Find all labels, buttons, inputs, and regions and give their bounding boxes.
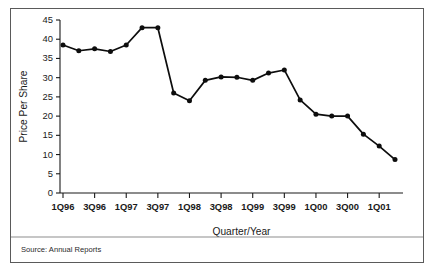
- x-tick-label: 1Q99: [241, 201, 264, 212]
- x-tick-label: 1Q01: [368, 201, 391, 212]
- x-tick-label: 1Q96: [52, 201, 75, 212]
- y-tick-label: 20: [43, 110, 53, 121]
- x-tick-label: 3Q99: [273, 201, 296, 212]
- x-axis-title: Quarter/Year: [213, 226, 272, 237]
- y-tick-label: 10: [43, 149, 53, 160]
- data-point-marker: [171, 91, 176, 96]
- x-tick-label: 1Q00: [304, 201, 327, 212]
- data-point-marker: [377, 144, 382, 149]
- x-tick-label: 3Q96: [83, 201, 106, 212]
- data-point-marker: [203, 78, 208, 83]
- chart-figure-frame: 0510152025303540451Q963Q961Q973Q971Q983Q…: [10, 8, 424, 263]
- data-point-marker: [250, 78, 255, 83]
- y-tick-label: 0: [48, 187, 53, 198]
- y-tick-label: 25: [43, 91, 53, 102]
- data-point-marker: [140, 25, 145, 30]
- data-series-price-per-share: [61, 25, 398, 162]
- data-point-marker: [282, 67, 287, 72]
- data-point-marker: [92, 46, 97, 51]
- y-axis-title: Price Per Share: [18, 70, 29, 142]
- y-tick-label: 35: [43, 52, 53, 63]
- data-point-marker: [61, 42, 66, 47]
- y-tick-label: 30: [43, 72, 53, 83]
- x-tick-label: 1Q97: [115, 201, 138, 212]
- data-point-marker: [124, 42, 129, 47]
- x-tick-label: 3Q97: [146, 201, 169, 212]
- series-line-path: [63, 28, 395, 160]
- y-tick-label: 5: [48, 168, 53, 179]
- data-point-marker: [329, 114, 334, 119]
- x-axis-ticks: 1Q963Q961Q973Q971Q983Q981Q993Q991Q003Q00…: [52, 193, 391, 212]
- x-tick-label: 3Q00: [336, 201, 359, 212]
- line-chart: 0510152025303540451Q963Q961Q973Q971Q983Q…: [11, 9, 423, 262]
- y-axis-ticks: 051015202530354045: [43, 14, 60, 198]
- data-point-marker: [234, 75, 239, 80]
- data-point-marker: [108, 49, 113, 54]
- x-tick-label: 1Q98: [178, 201, 201, 212]
- y-tick-label: 15: [43, 129, 53, 140]
- chart-axes: [60, 20, 403, 193]
- y-tick-label: 40: [43, 33, 53, 44]
- data-point-marker: [155, 25, 160, 30]
- data-point-marker: [361, 132, 366, 137]
- data-point-marker: [313, 112, 318, 117]
- data-point-marker: [187, 98, 192, 103]
- data-point-marker: [393, 157, 398, 162]
- chart-plot-area: 0510152025303540451Q963Q961Q973Q971Q983Q…: [11, 9, 423, 262]
- data-point-marker: [345, 114, 350, 119]
- data-point-marker: [76, 48, 81, 53]
- x-tick-label: 3Q98: [210, 201, 233, 212]
- data-point-marker: [266, 71, 271, 76]
- data-point-marker: [298, 97, 303, 102]
- y-tick-label: 45: [43, 14, 53, 25]
- data-point-marker: [219, 74, 224, 79]
- source-note: Source: Annual Reports: [21, 245, 101, 254]
